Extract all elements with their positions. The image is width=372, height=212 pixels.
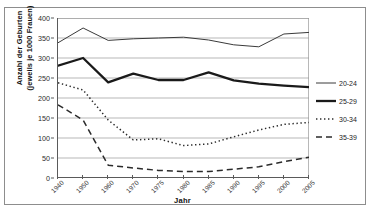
legend-label: 30-34 [339,116,357,123]
x-tick-label: 1960 [100,179,115,194]
x-tick-mark [107,175,108,179]
legend-line-swatch [316,79,336,87]
y-tick-label: 300 [38,54,50,63]
series-line-25-29 [58,58,309,87]
chart-legend: 20-2425-2930-3435-39 [316,74,372,146]
y-tick-mark [51,158,54,159]
legend-line-swatch [316,133,336,141]
y-tick-mark [51,38,54,39]
y-tick-mark [51,178,54,179]
legend-line-swatch [316,115,336,123]
legend-label: 25-29 [339,98,357,105]
x-tick-label: 1940 [50,179,65,194]
legend-item-35-39[interactable]: 35-39 [316,128,372,146]
y-tick-label: 350 [38,34,50,43]
legend-item-20-24[interactable]: 20-24 [316,74,372,92]
y-tick-mark [51,118,54,119]
y-tick-mark [51,18,54,19]
plot-area [57,18,308,178]
legend-label: 35-39 [339,134,357,141]
x-tick-mark [258,175,259,179]
chart-frame: Anzahl der Geburten (jeweils je 1000 Fra… [4,7,366,205]
y-tick-mark [51,78,54,79]
x-tick-mark [57,175,58,179]
y-tick-mark [51,98,54,99]
x-tick-mark [157,175,158,179]
x-tick-label: 1970 [125,179,140,194]
y-tick-mark [51,138,54,139]
series-line-30-34 [58,83,309,146]
series-line-20-24 [58,28,309,47]
x-tick-label: 1995 [250,179,265,194]
x-tick-label: 2005 [301,179,316,194]
x-tick-label: 1950 [75,179,90,194]
x-tick-mark [183,175,184,179]
y-tick-label: 200 [38,94,50,103]
x-tick-mark [233,175,234,179]
x-tick-label: 1980 [175,179,190,194]
x-tick-mark [283,175,284,179]
y-tick-label: 0 [46,174,50,183]
chart-lines [58,18,309,178]
x-tick-label: 1985 [200,179,215,194]
x-tick-label: 1990 [225,179,240,194]
y-tick-label: 250 [38,74,50,83]
x-tick-mark [308,175,309,179]
y-tick-label: 150 [38,114,50,123]
x-tick-label: 1975 [150,179,165,194]
x-tick-mark [208,175,209,179]
y-tick-mark [51,58,54,59]
x-tick-label: 2000 [276,179,291,194]
legend-item-25-29[interactable]: 25-29 [316,92,372,110]
y-tick-label: 400 [38,14,50,23]
y-axis-tick-labels: 050100150200250300350400 [5,18,54,178]
legend-item-30-34[interactable]: 30-34 [316,110,372,128]
y-tick-label: 50 [42,154,50,163]
legend-line-swatch [316,97,336,105]
legend-label: 20-24 [339,80,357,87]
x-axis-title: Jahr [57,196,308,205]
y-tick-label: 100 [38,134,50,143]
x-tick-mark [132,175,133,179]
x-tick-mark [82,175,83,179]
